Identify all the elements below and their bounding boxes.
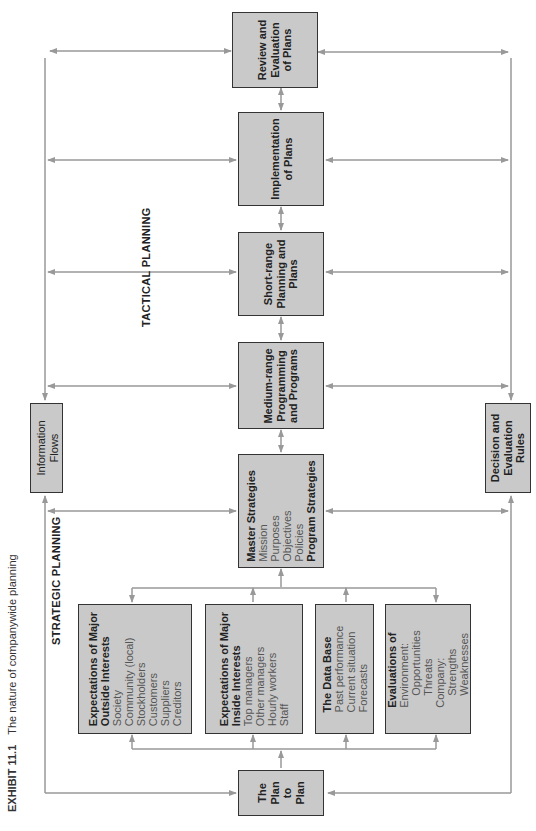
box-item: Strengths xyxy=(446,630,458,707)
inside-interests-box: Expectations of Major Inside Interests T… xyxy=(205,604,303,734)
exhibit-number: EXHIBIT 11.1 xyxy=(6,745,18,812)
box-item: Mission xyxy=(257,460,269,561)
decision-evaluation-rules-box: Decision and Evaluation Rules xyxy=(485,403,531,493)
box-item: Suppliers xyxy=(159,612,171,726)
implementation-box: Implementation of Plans xyxy=(238,112,324,206)
box-item: Environment: xyxy=(398,630,410,707)
box-item: Other managers xyxy=(254,612,266,726)
box-text: Decision and xyxy=(489,414,502,482)
box-text: and Programs xyxy=(287,348,300,423)
exhibit-caption: EXHIBIT 11.1The nature of companywide pl… xyxy=(6,554,18,812)
review-evaluation-box: Review and Evaluation of Plans xyxy=(232,12,318,88)
box-item: Top managers xyxy=(242,612,254,726)
short-range-box: Short-range Planning and Plans xyxy=(238,232,324,316)
box-heading: Evaluations of xyxy=(386,630,398,707)
box-item: Past performance xyxy=(333,626,345,713)
box-item: Stockholders xyxy=(135,612,147,726)
master-strategies-box: Master Strategies Mission Purposes Objec… xyxy=(238,454,324,568)
box-heading: The Data Base xyxy=(321,626,333,713)
plan-to-plan-box: The Plan to Plan xyxy=(238,770,324,816)
box-heading: Program Strategies xyxy=(305,460,317,561)
box-heading: Expectations of Major xyxy=(87,612,99,726)
strategic-planning-label: STRATEGIC PLANNING xyxy=(50,516,62,645)
box-heading: Outside Interests xyxy=(99,612,111,726)
information-flows-box: Information Flows xyxy=(30,403,63,493)
box-item: Objectives xyxy=(281,460,293,561)
box-item: Creditors xyxy=(171,612,183,726)
box-item: Opportunities xyxy=(410,630,422,707)
box-text: Plan xyxy=(269,781,282,804)
box-item: Threats xyxy=(422,630,434,707)
box-item: Community (local) xyxy=(123,612,135,726)
box-item: Customers xyxy=(147,612,159,726)
box-text: of Plans xyxy=(281,20,294,81)
data-base-box: The Data Base Past performance Current s… xyxy=(315,604,374,734)
box-text: Evaluation xyxy=(269,20,282,81)
box-item: Staff xyxy=(278,612,290,726)
box-text: Implementation xyxy=(269,118,282,199)
box-text: Short-range xyxy=(262,239,275,308)
box-heading: Expectations of Major xyxy=(218,612,230,726)
box-text: Review and xyxy=(256,20,269,81)
box-text: The xyxy=(256,781,269,804)
box-item: Hourly workers xyxy=(266,612,278,726)
box-text: to xyxy=(281,781,294,804)
box-text: Evaluation xyxy=(502,414,515,482)
evaluations-box: Evaluations of Environment: Opportunitie… xyxy=(385,604,471,734)
box-text: Flows xyxy=(47,420,60,475)
box-heading: Inside Interests xyxy=(230,612,242,726)
tactical-planning-label: TACTICAL PLANNING xyxy=(140,207,152,327)
box-item: Policies xyxy=(293,460,305,561)
box-heading: Master Strategies xyxy=(245,460,257,561)
box-item: Society xyxy=(111,612,123,726)
box-text: of Plans xyxy=(281,118,294,199)
box-item: Current situation xyxy=(345,626,357,713)
box-text: Information xyxy=(34,420,47,475)
medium-range-box: Medium-range Programming and Programs xyxy=(238,342,324,429)
outside-interests-box: Expectations of Major Outside Interests … xyxy=(78,604,192,734)
box-item: Weaknesses xyxy=(458,630,470,707)
box-item: Purposes xyxy=(269,460,281,561)
box-text: Programming xyxy=(275,348,288,423)
box-text: Plans xyxy=(287,239,300,308)
box-text: Rules xyxy=(514,414,527,482)
box-item: Forecasts xyxy=(357,626,369,713)
box-item: Company: xyxy=(434,630,446,707)
box-text: Plan xyxy=(294,781,307,804)
box-text: Planning and xyxy=(275,239,288,308)
exhibit-title: The nature of companywide planning xyxy=(6,554,18,734)
box-text: Medium-range xyxy=(262,348,275,423)
